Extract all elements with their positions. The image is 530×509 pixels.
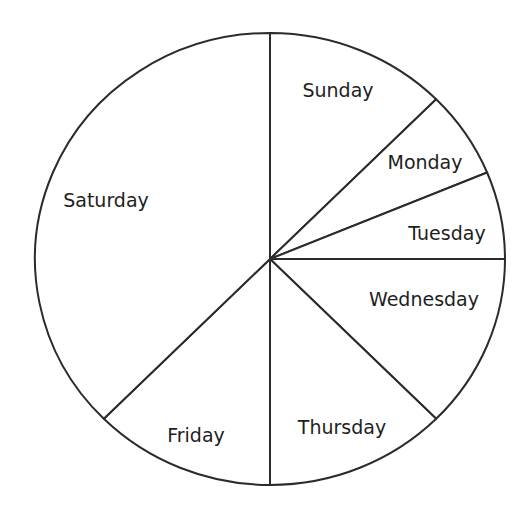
pie-slices xyxy=(35,33,505,485)
slice-label-thursday: Thursday xyxy=(297,416,386,438)
slice-label-monday: Monday xyxy=(387,151,462,173)
slice-label-tuesday: Tuesday xyxy=(407,222,485,244)
slice-label-friday: Friday xyxy=(167,424,225,446)
slice-label-sunday: Sunday xyxy=(302,79,373,101)
slice-label-saturday: Saturday xyxy=(63,189,149,211)
pie-chart: Sunday Monday Tuesday Wednesday Thursday… xyxy=(0,0,530,509)
slice-label-wednesday: Wednesday xyxy=(369,288,479,310)
